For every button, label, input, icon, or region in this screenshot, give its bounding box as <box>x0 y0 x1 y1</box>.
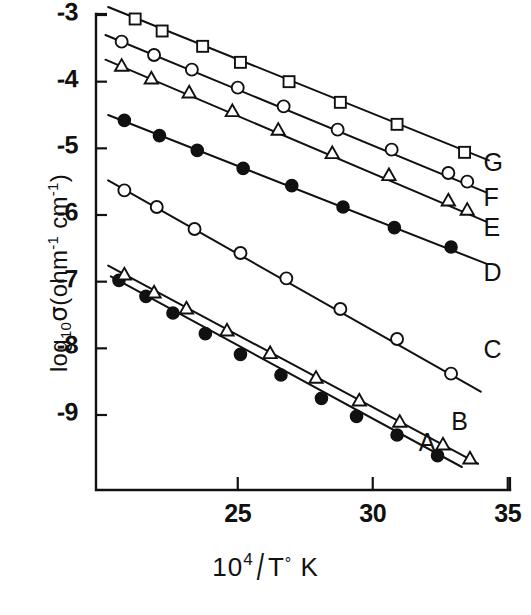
marker-B-7 <box>393 415 406 427</box>
series-label-E: E <box>484 213 501 242</box>
marker-G-4 <box>284 76 295 87</box>
marker-G-5 <box>335 97 346 108</box>
marker-F-5 <box>332 124 344 136</box>
marker-A-4 <box>234 348 246 360</box>
y-tick-label-8: -8 <box>14 330 79 361</box>
series-label-C: C <box>484 335 502 364</box>
figure-canvas: log10σ(ohm-1 cm-1) 104/T° K -3-4-5-6-7-8… <box>0 0 531 615</box>
marker-G-3 <box>235 57 246 68</box>
marker-E-4 <box>272 123 285 135</box>
fit-line-C <box>108 180 481 391</box>
marker-C-4 <box>280 272 292 284</box>
x-title-unit: K <box>300 552 318 582</box>
marker-E-8 <box>461 203 474 215</box>
series-label-G: G <box>484 148 503 177</box>
marker-F-1 <box>148 49 160 61</box>
y-tick-label-4: -4 <box>14 64 79 95</box>
series-label-D: D <box>484 258 502 287</box>
marker-E-6 <box>382 168 395 180</box>
y-tick-label-7: -7 <box>14 264 79 295</box>
marker-C-5 <box>334 303 346 315</box>
marker-F-4 <box>278 100 290 112</box>
y-tick-label-9: -9 <box>14 397 79 428</box>
marker-D-7 <box>445 241 457 253</box>
marker-B-3 <box>220 324 233 336</box>
marker-G-1 <box>157 26 168 37</box>
y-tick-label-5: -5 <box>14 130 79 161</box>
marker-C-7 <box>445 368 457 380</box>
fit-line-F <box>105 35 486 192</box>
marker-G-0 <box>130 14 141 25</box>
marker-B-8 <box>436 438 449 450</box>
marker-F-3 <box>232 82 244 94</box>
marker-A-2 <box>167 307 179 319</box>
marker-D-1 <box>153 130 165 142</box>
series-label-F: F <box>484 183 499 212</box>
marker-E-2 <box>183 86 196 98</box>
marker-D-5 <box>337 201 349 213</box>
series-A <box>111 274 462 467</box>
marker-C-2 <box>189 223 201 235</box>
marker-F-2 <box>186 64 198 76</box>
marker-C-3 <box>234 247 246 259</box>
marker-B-5 <box>309 371 322 383</box>
marker-D-2 <box>191 144 203 156</box>
x-title-denominator: T <box>268 552 285 582</box>
marker-G-6 <box>392 119 403 130</box>
marker-C-1 <box>151 201 163 213</box>
marker-A-3 <box>199 328 211 340</box>
marker-A-5 <box>275 369 287 381</box>
marker-E-3 <box>226 104 239 116</box>
degree-symbol-icon: ° <box>285 555 292 572</box>
x-axis-title: 104/T° K <box>0 552 531 583</box>
series-C <box>108 180 481 391</box>
x-tick-label-25: 25 <box>198 499 278 528</box>
marker-D-0 <box>118 114 130 126</box>
x-title-exponent: 4 <box>243 550 253 569</box>
marker-B-2 <box>180 302 193 314</box>
marker-F-6 <box>386 144 398 156</box>
marker-A-6 <box>315 392 327 404</box>
marker-F-7 <box>442 167 454 179</box>
marker-D-6 <box>388 222 400 234</box>
y-tick-label-6: -6 <box>14 197 79 228</box>
series-group <box>105 7 488 467</box>
marker-G-2 <box>197 41 208 52</box>
marker-A-7 <box>351 410 363 422</box>
marker-C-0 <box>118 184 130 196</box>
marker-A-8 <box>391 429 403 441</box>
series-F <box>105 35 486 192</box>
x-tick-label-35: 35 <box>468 499 531 528</box>
x-tick-label-30: 30 <box>333 499 413 528</box>
series-label-A: A <box>419 428 436 457</box>
marker-G-7 <box>459 147 470 158</box>
marker-E-5 <box>326 146 339 158</box>
marker-D-3 <box>237 162 249 174</box>
marker-B-6 <box>353 394 366 406</box>
marker-F-0 <box>116 36 128 48</box>
marker-B-4 <box>264 346 277 358</box>
marker-F-8 <box>461 176 473 188</box>
marker-D-4 <box>286 180 298 192</box>
series-label-B: B <box>451 407 468 436</box>
marker-C-6 <box>391 333 403 345</box>
marker-E-7 <box>442 194 455 206</box>
x-title-base: 10 <box>212 552 243 582</box>
y-tick-label-3: -3 <box>14 0 79 28</box>
x-title-slash: / <box>254 545 268 590</box>
